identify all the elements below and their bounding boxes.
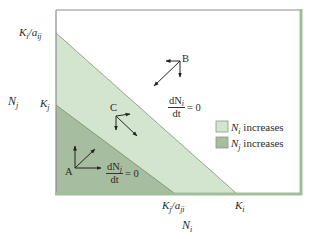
competition-isocline-diagram: Nj Ki/aij Kj Kj/aji Ki Ni A B C dNi dt =… xyxy=(0,0,309,239)
y-axis-label: Nj xyxy=(8,95,18,109)
point-a-label: A xyxy=(65,166,73,178)
x-axis-label: Ni xyxy=(182,219,192,233)
legend-item-nj-increases: Nj increases xyxy=(231,136,284,149)
point-b-label: B xyxy=(182,53,189,65)
isocline-nj-equation: dNj dt = 0 xyxy=(106,161,139,185)
isocline-ni-equation: dNi dt = 0 xyxy=(168,95,201,119)
y-tick-kj: Kj xyxy=(40,97,50,111)
x-tick-kj-over-aji: Kj/aji xyxy=(162,199,185,213)
y-tick-ki-over-aij: Ki/aij xyxy=(19,26,42,40)
x-tick-ki: Ki xyxy=(235,199,245,213)
arrow-down-left-icon xyxy=(154,61,180,86)
legend-swatch-nj xyxy=(216,137,228,148)
point-c-label: C xyxy=(110,102,117,114)
point-b-arrows xyxy=(154,61,180,86)
legend-swatch-ni xyxy=(216,121,228,132)
legend-item-ni-increases: Ni increases xyxy=(231,120,284,133)
